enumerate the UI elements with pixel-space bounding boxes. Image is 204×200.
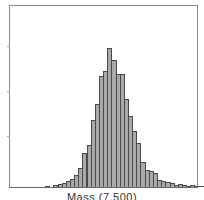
histogram-bars bbox=[10, 6, 197, 187]
histogram-bar bbox=[199, 186, 204, 187]
plot-area bbox=[9, 5, 198, 188]
histogram-bar bbox=[45, 186, 50, 187]
x-axis-label: Mass (7,500) bbox=[0, 191, 204, 200]
